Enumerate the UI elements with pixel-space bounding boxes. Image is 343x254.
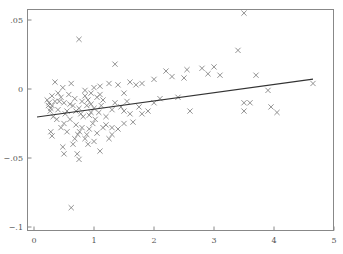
x-marker-icon: [88, 102, 93, 107]
x-marker-icon: [91, 106, 96, 111]
x-marker-icon: [76, 37, 81, 42]
x-marker-icon: [112, 100, 117, 105]
x-tick-label: 4: [271, 236, 276, 245]
x-marker-icon: [61, 100, 66, 105]
y-tick-label: −.1: [9, 223, 23, 232]
x-marker-icon: [88, 91, 93, 96]
x-marker-icon: [73, 122, 78, 127]
x-marker-icon: [75, 151, 80, 156]
x-marker-icon: [127, 111, 132, 116]
x-marker-icon: [163, 68, 168, 73]
x-marker-icon: [121, 108, 126, 113]
x-marker-icon: [184, 67, 189, 72]
x-marker-icon: [58, 125, 63, 130]
x-marker-icon: [145, 108, 150, 113]
plot-frame: [28, 10, 334, 231]
x-marker-icon: [109, 107, 114, 112]
x-marker-icon: [205, 71, 210, 76]
x-marker-icon: [235, 48, 240, 53]
x-marker-icon: [76, 157, 81, 162]
x-marker-icon: [67, 117, 72, 122]
x-marker-icon: [60, 144, 65, 149]
x-marker-icon: [199, 66, 204, 71]
x-marker-icon: [241, 100, 246, 105]
scatter-chart: .050−.05−.1 012345: [0, 0, 343, 254]
x-marker-icon: [274, 110, 279, 115]
x-marker-icon: [54, 117, 59, 122]
x-marker-icon: [91, 85, 96, 90]
x-marker-icon: [106, 136, 111, 141]
x-marker-icon: [211, 64, 216, 69]
x-marker-icon: [265, 88, 270, 93]
x-marker-icon: [69, 205, 74, 210]
x-marker-icon: [109, 132, 114, 137]
x-marker-icon: [45, 97, 50, 102]
x-marker-icon: [169, 74, 174, 79]
y-tick-label: .05: [10, 16, 23, 25]
x-marker-icon: [181, 75, 186, 80]
x-marker-icon: [88, 110, 93, 115]
x-marker-icon: [55, 107, 60, 112]
x-marker-icon: [87, 126, 92, 131]
x-marker-icon: [100, 97, 105, 102]
x-marker-icon: [241, 108, 246, 113]
x-marker-icon: [79, 99, 84, 104]
x-marker-icon: [55, 91, 60, 96]
x-marker-icon: [66, 92, 71, 97]
x-marker-icon: [139, 81, 144, 86]
x-marker-icon: [100, 125, 105, 130]
regression-line: [37, 79, 313, 117]
x-tick-label: 5: [331, 236, 336, 245]
x-marker-icon: [139, 111, 144, 116]
x-marker-icon: [52, 80, 57, 85]
x-marker-icon: [268, 104, 273, 109]
x-tick-label: 1: [91, 236, 96, 245]
x-marker-icon: [97, 84, 102, 89]
x-marker-icon: [61, 121, 66, 126]
x-marker-icon: [130, 120, 135, 125]
x-marker-icon: [187, 108, 192, 113]
x-marker-icon: [121, 91, 126, 96]
x-marker-icon: [61, 151, 66, 156]
x-marker-icon: [127, 80, 132, 85]
x-axis: 012345: [31, 227, 336, 246]
x-marker-icon: [91, 139, 96, 144]
x-marker-icon: [72, 96, 77, 101]
x-marker-icon: [69, 81, 74, 86]
x-marker-icon: [121, 121, 126, 126]
x-marker-icon: [60, 85, 65, 90]
x-tick-label: 3: [211, 236, 216, 245]
x-marker-icon: [310, 81, 315, 86]
x-marker-icon: [84, 103, 89, 108]
x-marker-icon: [64, 129, 69, 134]
x-marker-icon: [82, 93, 87, 98]
x-marker-icon: [247, 100, 252, 105]
x-marker-icon: [82, 88, 87, 93]
x-marker-icon: [85, 142, 90, 147]
x-tick-label: 0: [31, 236, 36, 245]
x-marker-icon: [49, 93, 54, 98]
x-marker-icon: [112, 62, 117, 67]
x-marker-icon: [72, 136, 77, 141]
x-marker-icon: [96, 110, 101, 115]
x-marker-icon: [48, 129, 53, 134]
x-marker-icon: [133, 82, 138, 87]
x-marker-icon: [94, 131, 99, 136]
x-marker-icon: [136, 104, 141, 109]
y-tick-label: 0: [18, 85, 23, 94]
x-marker-icon: [49, 133, 54, 138]
y-tick-label: −.05: [4, 154, 23, 163]
x-marker-icon: [217, 73, 222, 78]
x-marker-icon: [52, 99, 57, 104]
x-marker-icon: [81, 114, 86, 119]
x-marker-icon: [97, 149, 102, 154]
x-marker-icon: [106, 81, 111, 86]
x-marker-icon: [97, 92, 102, 97]
x-marker-icon: [103, 114, 108, 119]
x-marker-icon: [70, 142, 75, 147]
x-marker-icon: [151, 77, 156, 82]
x-marker-icon: [241, 11, 246, 16]
x-marker-icon: [124, 99, 129, 104]
x-marker-icon: [75, 132, 80, 137]
x-marker-icon: [115, 82, 120, 87]
